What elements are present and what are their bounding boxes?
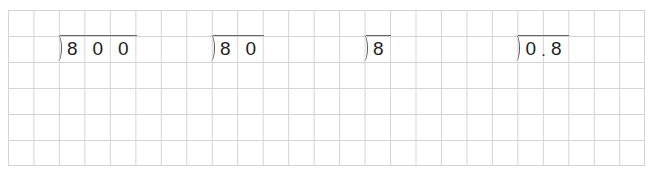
dividend-digit: 8 <box>213 36 238 62</box>
dividend-digit: 8 <box>366 36 391 62</box>
dividend-digit: 8 <box>60 36 85 62</box>
dividend-digit: 8 <box>544 36 569 62</box>
dividend-digit: 0 <box>111 36 136 62</box>
dividend-digit: 0 <box>85 36 110 62</box>
division-problem-80: 8 0 <box>213 36 264 62</box>
dividend-digit: 0 <box>238 36 263 62</box>
division-problem-800: 8 0 0 <box>60 36 137 62</box>
division-problem-8: 8 <box>366 36 392 62</box>
graph-paper-grid <box>8 10 645 166</box>
division-problem-0-8: 0 . 8 <box>518 36 569 62</box>
